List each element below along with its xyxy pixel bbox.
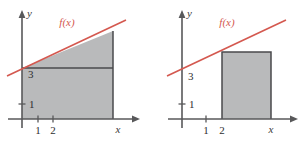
- x-tick-label-2: 2: [219, 124, 225, 136]
- right-panel-svg: y x f(x) 3 1 1 2: [154, 0, 307, 150]
- y-axis-label: y: [186, 7, 192, 19]
- y-tick-label-1: 1: [189, 98, 195, 110]
- left-panel: y x f(x) 3 1 1 2: [0, 0, 153, 150]
- right-panel: y x f(x) 3 1 1 2: [154, 0, 307, 150]
- shaded-region-trapezoid: [22, 31, 113, 119]
- y-tick-label-1: 1: [29, 98, 35, 110]
- x-axis-arrow: [290, 116, 298, 123]
- x-axis-label: x: [115, 123, 121, 135]
- y-axis-label: y: [26, 7, 32, 19]
- y-tick-label-3: 3: [28, 68, 34, 80]
- y-axis-arrow: [19, 10, 26, 18]
- x-tick-label-1: 1: [203, 124, 209, 136]
- fx-curve-label: f(x): [219, 16, 235, 29]
- figure-root: y x f(x) 3 1 1 2: [0, 0, 307, 150]
- fx-curve-label: f(x): [59, 16, 75, 29]
- y-axis-arrow: [179, 10, 186, 18]
- x-axis-label: x: [268, 123, 274, 135]
- shaded-region-rectangle: [222, 52, 271, 119]
- x-tick-label-2: 2: [50, 124, 56, 136]
- x-axis-arrow: [132, 116, 140, 123]
- y-tick-label-3: 3: [188, 70, 194, 82]
- x-tick-label-1: 1: [35, 124, 41, 136]
- left-panel-svg: y x f(x) 3 1 1 2: [0, 0, 153, 150]
